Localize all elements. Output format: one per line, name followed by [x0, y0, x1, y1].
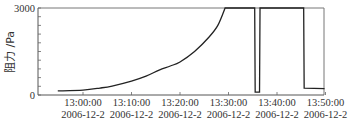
- x-tick-date: 2006-12-2: [61, 109, 105, 120]
- resistance-line-chart: 03000 13:00:002006-12-213:10:002006-12-2…: [0, 0, 351, 122]
- x-tick-date: 2006-12-2: [304, 109, 348, 120]
- y-tick-label: 3000: [14, 3, 35, 14]
- plot-frame: [38, 8, 324, 95]
- x-tick-time: 13:10:00: [113, 97, 150, 108]
- y-axis: 03000: [14, 3, 41, 101]
- x-axis: 13:00:002006-12-213:10:002006-12-213:20:…: [61, 92, 347, 120]
- x-tick-date: 2006-12-2: [110, 109, 154, 120]
- x-tick-date: 2006-12-2: [158, 109, 202, 120]
- x-tick-time: 13:50:00: [307, 97, 344, 108]
- x-tick-time: 13:20:00: [161, 97, 198, 108]
- data-series: [58, 8, 325, 92]
- y-axis-title: 阻力 /Pa: [4, 31, 17, 73]
- x-tick-date: 2006-12-2: [255, 109, 299, 120]
- x-tick-date: 2006-12-2: [207, 109, 251, 120]
- resistance-series-line: [58, 8, 325, 92]
- y-tick-label: 0: [30, 90, 35, 101]
- x-tick-time: 13:00:00: [64, 97, 101, 108]
- x-tick-time: 13:40:00: [258, 97, 295, 108]
- x-tick-time: 13:30:00: [210, 97, 247, 108]
